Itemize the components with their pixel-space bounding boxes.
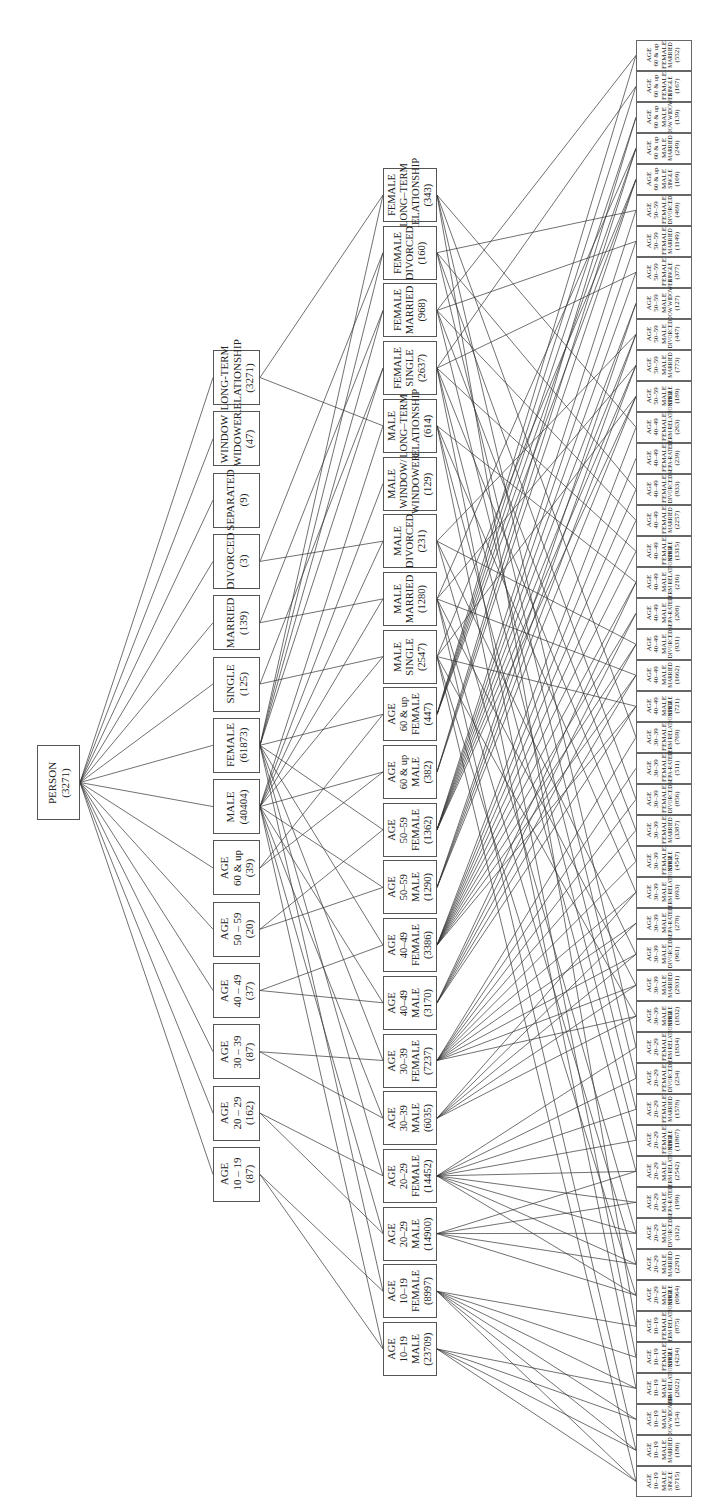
node-count: (87) bbox=[243, 1158, 256, 1191]
edge bbox=[437, 368, 636, 551]
edge bbox=[437, 1109, 636, 1176]
node-level2-label: FEMALE(61873) bbox=[224, 723, 249, 767]
node-level3-label: AGE60 & upMALE(382) bbox=[386, 755, 434, 789]
edge bbox=[80, 439, 213, 783]
node-level3: MALESINGLE(2547) bbox=[383, 630, 437, 684]
edge bbox=[437, 179, 636, 714]
edge bbox=[80, 500, 213, 782]
node-count: (180) bbox=[674, 1438, 681, 1463]
node-leaf-label: AGE40–49MALEDIVORCED(931) bbox=[646, 630, 681, 658]
edge bbox=[437, 195, 636, 737]
node-title: 50–59 bbox=[398, 809, 410, 851]
node-count: (39) bbox=[243, 850, 256, 886]
node-title: MALE bbox=[410, 1103, 422, 1133]
node-leaf-label: AGE30–39FEMALEMARRIED(3387) bbox=[646, 816, 681, 844]
node-count: (1290) bbox=[422, 873, 434, 903]
edge bbox=[260, 1113, 383, 1234]
node-leaf: AGE40–49MALESEPA-RATED(208) bbox=[636, 598, 692, 629]
node-level2-label: AGE50 – 59(20) bbox=[218, 913, 256, 946]
node-title: 30–39 bbox=[398, 1103, 410, 1133]
node-person-label: PERSON(3271) bbox=[46, 761, 71, 803]
node-level3: AGE50–59FEMALE(1362) bbox=[383, 803, 437, 857]
node-title: AGE bbox=[386, 1270, 398, 1312]
node-count: (447) bbox=[674, 320, 681, 348]
node-level2: DIVORCED(3) bbox=[213, 534, 260, 589]
node-leaf: AGE20–29MALEMARRIED(2291) bbox=[636, 1249, 692, 1280]
node-title: MALE bbox=[410, 873, 422, 903]
node-level2: MALE(40404) bbox=[213, 779, 260, 834]
node-title: AGE bbox=[218, 1035, 231, 1068]
node-level2-label: WINDOWWIDOWER(47) bbox=[218, 412, 256, 466]
node-level2-label: MALE(40404) bbox=[224, 789, 249, 824]
node-count: (1578) bbox=[674, 1095, 681, 1123]
node-level2: MARRIED(139) bbox=[213, 595, 260, 650]
node-title: MALE bbox=[392, 514, 404, 568]
node-count: (2637) bbox=[416, 347, 428, 389]
node-count: (3386) bbox=[422, 924, 434, 966]
edge bbox=[437, 768, 636, 1060]
node-level3: AGE40–49MALE(3170) bbox=[383, 976, 437, 1030]
node-count: (1280) bbox=[416, 575, 428, 623]
edge bbox=[80, 684, 213, 783]
node-level2: FEMALE(61873) bbox=[213, 718, 260, 773]
edge bbox=[437, 1016, 636, 1118]
node-title: SINGLE bbox=[404, 347, 416, 389]
node-level2-label: SEPARATED(9) bbox=[224, 469, 249, 530]
edge bbox=[437, 253, 636, 1079]
edge bbox=[437, 1176, 636, 1295]
node-title: MARRIED bbox=[224, 597, 237, 648]
node-title: 50–59 bbox=[398, 873, 410, 903]
node-leaf-label: AGE20–29FEMALEMARRIED(1578) bbox=[646, 1095, 681, 1123]
edge bbox=[260, 745, 383, 1176]
node-level3: MALEMARRIED(1280) bbox=[383, 572, 437, 626]
node-title: FEMALE bbox=[392, 286, 404, 334]
node-count: (931) bbox=[674, 630, 681, 658]
node-level3: AGE60 & upMALE(382) bbox=[383, 745, 437, 799]
edge bbox=[260, 991, 383, 1003]
node-title: AGE bbox=[386, 1103, 398, 1133]
node-title: DIVORCED bbox=[404, 226, 416, 280]
node-count: (234) bbox=[674, 1064, 681, 1092]
node-title: MALE bbox=[410, 1217, 422, 1250]
edge bbox=[437, 954, 636, 1060]
node-title: 10–19 bbox=[398, 1270, 410, 1312]
edge bbox=[80, 783, 213, 1114]
edge bbox=[437, 1171, 636, 1176]
edge bbox=[437, 1291, 636, 1419]
node-count: (343) bbox=[422, 158, 434, 232]
node-count: (139) bbox=[237, 597, 250, 648]
node-count: (1662) bbox=[674, 663, 681, 688]
node-leaf: AGE40–49MALEMARRIED(1662) bbox=[636, 660, 692, 691]
node-leaf: AGE20–29FEMALELONG-TERM RELATIONSHIP(183… bbox=[636, 1032, 692, 1063]
node-level3-label: AGE30–39FEMALE(7237) bbox=[386, 1040, 434, 1082]
edge bbox=[437, 657, 636, 1482]
node-level2: AGE60 & up(39) bbox=[213, 840, 260, 895]
node-title: AGE bbox=[386, 1155, 398, 1197]
node-level2: AGE30 – 39(87) bbox=[213, 1024, 260, 1079]
edge bbox=[437, 582, 636, 945]
node-count: (773) bbox=[674, 353, 681, 378]
edge bbox=[260, 599, 383, 623]
node-level2-label: AGE20 – 29(162) bbox=[218, 1097, 256, 1130]
node-count: (6035) bbox=[422, 1103, 434, 1133]
edge bbox=[260, 745, 383, 829]
edge-layer bbox=[0, 0, 728, 1504]
edge bbox=[260, 1052, 383, 1118]
node-title: WINDOWER bbox=[410, 454, 422, 513]
edge bbox=[260, 807, 383, 1119]
edge bbox=[437, 1291, 636, 1450]
node-title: RELATIONSHIP bbox=[410, 158, 422, 232]
edge bbox=[260, 714, 383, 745]
node-leaf: AGE40–49FEMALEMARRIED(2257) bbox=[636, 505, 692, 536]
node-level3-label: FEMALEMARRIED(968) bbox=[392, 286, 428, 334]
node-leaf: AGE30–39MALEMARRIED(2931) bbox=[636, 970, 692, 1001]
edge bbox=[437, 1291, 636, 1481]
node-count: (3170) bbox=[422, 988, 434, 1018]
node-count: (2257) bbox=[674, 506, 681, 534]
node-title: MALE bbox=[392, 575, 404, 623]
node-title: 60 & up bbox=[230, 850, 243, 886]
edge bbox=[260, 1052, 383, 1061]
node-level3-label: AGE10–19MALE(23709) bbox=[386, 1332, 434, 1365]
edge bbox=[260, 807, 383, 1003]
node-leaf-label: AGE20–29MALEDIVORCED(312) bbox=[646, 1219, 681, 1247]
